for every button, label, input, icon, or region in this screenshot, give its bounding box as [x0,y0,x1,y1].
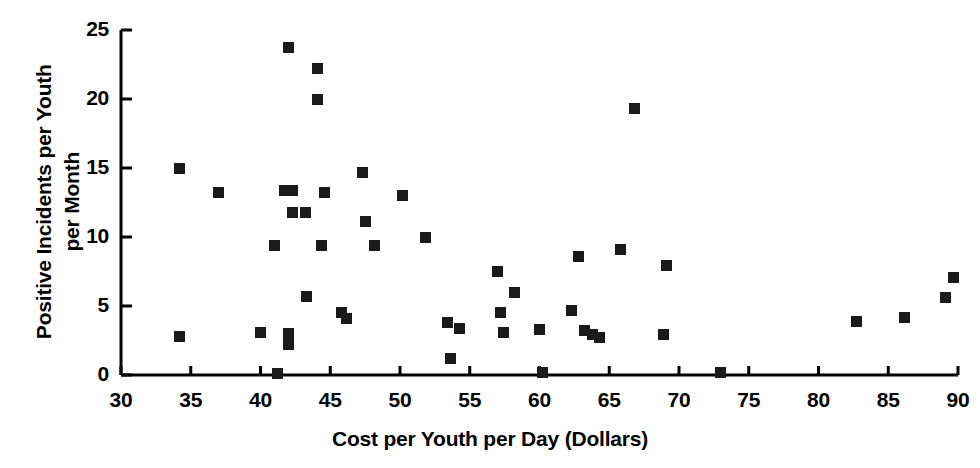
data-point [454,323,465,334]
data-point [357,167,368,178]
data-point [174,163,185,174]
x-tick-label: 50 [375,388,425,412]
scatter-plot-figure: 0510152025 30354045505560657075808590 Po… [0,0,980,468]
data-point [213,187,224,198]
data-point [851,316,862,327]
data-point [341,313,352,324]
x-tick-label: 45 [305,388,355,412]
data-point [301,291,312,302]
data-point [283,328,294,339]
data-point [445,353,456,364]
x-tick-label: 35 [166,388,216,412]
data-point [899,312,910,323]
data-point [615,244,626,255]
x-tick-label: 90 [933,388,980,412]
x-tick-label: 30 [96,388,146,412]
data-point [594,332,605,343]
data-point [566,305,577,316]
data-point [715,367,726,378]
data-point [300,207,311,218]
data-point [360,216,371,227]
data-point [661,260,672,271]
data-point [573,251,584,262]
data-point [658,329,669,340]
data-point [319,187,330,198]
data-point [255,327,266,338]
data-point [287,185,298,196]
x-tick-label: 65 [584,388,634,412]
data-point [420,232,431,243]
data-point [369,240,380,251]
data-point [316,240,327,251]
data-point [269,240,280,251]
x-tick-label: 40 [236,388,286,412]
data-point [283,339,294,350]
data-point [397,190,408,201]
x-tick-label: 80 [794,388,844,412]
data-point [287,207,298,218]
x-tick-label: 60 [515,388,565,412]
y-axis-title: Positive Incidents per Youth per Month [30,2,85,402]
data-point [948,272,959,283]
data-point [312,63,323,74]
data-point [509,287,520,298]
x-tick-label: 70 [654,388,704,412]
data-point [283,42,294,53]
data-point [174,331,185,342]
data-point [498,327,509,338]
x-tick-label: 75 [724,388,774,412]
data-point [312,94,323,105]
data-point [940,292,951,303]
x-tick-label: 55 [445,388,495,412]
data-point [629,103,640,114]
data-point [492,266,503,277]
x-axis-title: Cost per Youth per Day (Dollars) [0,427,980,451]
x-tick-label: 85 [863,388,913,412]
data-point [442,317,453,328]
data-point [534,324,545,335]
data-point [495,307,506,318]
data-point [537,367,548,378]
data-point [272,368,283,379]
